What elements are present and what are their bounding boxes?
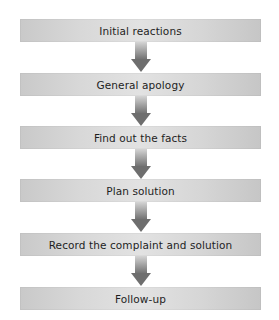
step-follow-up: Follow-up	[20, 287, 261, 310]
step-label: Find out the facts	[94, 132, 187, 144]
step-record-complaint: Record the complaint and solution	[20, 233, 261, 256]
down-arrow-icon	[131, 202, 151, 233]
step-label: Record the complaint and solution	[49, 239, 233, 251]
down-arrow-icon	[131, 256, 151, 287]
down-arrow-icon	[131, 149, 151, 180]
step-label: Follow-up	[115, 293, 166, 305]
step-label: General apology	[97, 79, 185, 91]
step-label: Initial reactions	[99, 25, 181, 37]
step-general-apology: General apology	[20, 73, 261, 96]
step-initial-reactions: Initial reactions	[20, 19, 261, 42]
step-find-out-facts: Find out the facts	[20, 126, 261, 149]
step-plan-solution: Plan solution	[20, 179, 261, 202]
down-arrow-icon	[131, 42, 151, 73]
down-arrow-icon	[131, 96, 151, 127]
flowchart: Initial reactions General apology Find o…	[0, 0, 279, 320]
step-label: Plan solution	[106, 185, 175, 197]
